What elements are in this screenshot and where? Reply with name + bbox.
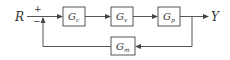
output-label: Y bbox=[211, 10, 220, 24]
plus-sign: + bbox=[34, 4, 42, 14]
minus-sign: − bbox=[33, 16, 41, 26]
block-gv: Gv bbox=[111, 7, 133, 26]
block-diagram: R + − Gc Gv Gp Y Gm bbox=[0, 0, 230, 60]
block-gp: Gp bbox=[158, 7, 180, 26]
block-gm: Gm bbox=[111, 37, 135, 55]
diagram-canvas: R + − Gc Gv Gp Y Gm bbox=[0, 0, 230, 60]
input-label: R bbox=[14, 10, 24, 24]
block-gc: Gc bbox=[63, 7, 85, 26]
